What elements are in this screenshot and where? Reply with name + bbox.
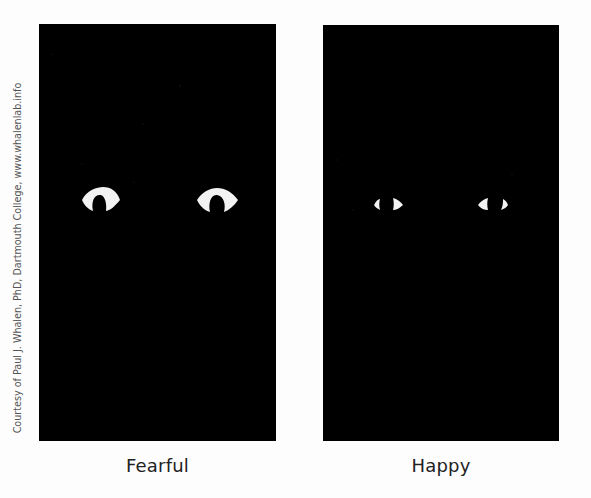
happy-caption: Happy [323,455,559,476]
happy-eye-whites-panel [323,25,559,441]
image-credit: Courtesy of Paul J. Whalen, PhD, Dartmou… [12,73,24,443]
fearful-left-eye [82,187,120,211]
happy-eyes-graphic [323,25,559,441]
fearful-caption: Fearful [39,455,276,476]
fearful-eyes-graphic [39,24,276,441]
happy-right-eye [478,198,508,210]
happy-left-eye [374,198,403,210]
fearful-right-eye [197,188,238,212]
fearful-eye-whites-panel [39,24,276,441]
figure-canvas: Courtesy of Paul J. Whalen, PhD, Dartmou… [0,0,591,498]
